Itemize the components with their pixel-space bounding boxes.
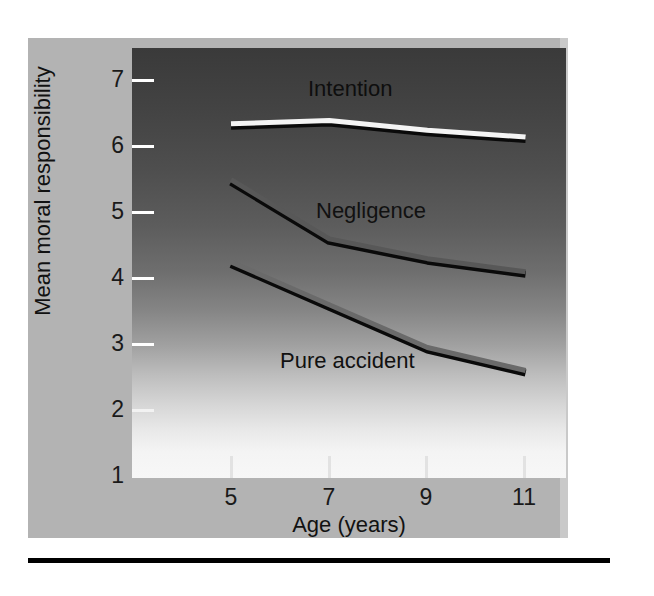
x-tick-7: [328, 456, 331, 478]
y-tick-6: [132, 145, 154, 148]
x-tick-9: [425, 456, 428, 478]
y-tick-2: [132, 409, 154, 412]
y-tick-3: [132, 343, 154, 346]
series-label-intention: Intention: [308, 78, 392, 100]
y-axis-label-1: 1: [98, 464, 124, 487]
figure-container: Intention Negligence Pure accident 7 6 5…: [0, 0, 654, 596]
y-tick-4: [132, 277, 154, 280]
x-axis-label-9: 9: [406, 486, 446, 509]
y-axis-label-2: 2: [98, 398, 124, 421]
y-tick-7: [132, 79, 154, 82]
x-axis-label-5: 5: [211, 486, 251, 509]
x-tick-11: [523, 456, 526, 478]
y-axis-label-6: 6: [98, 134, 124, 157]
x-axis-label-11: 11: [504, 486, 544, 509]
y-axis-label-3: 3: [98, 332, 124, 355]
series-label-pure-accident: Pure accident: [280, 350, 415, 372]
series-label-negligence: Negligence: [316, 200, 426, 222]
y-axis-label-7: 7: [98, 68, 124, 91]
x-tick-5: [230, 456, 233, 478]
y-axis-label-4: 4: [98, 266, 124, 289]
bottom-rule: [28, 558, 610, 563]
plot-area: Intention Negligence Pure accident: [132, 48, 566, 478]
y-tick-5: [132, 211, 154, 214]
y-axis-label-5: 5: [98, 200, 124, 223]
x-axis-label-7: 7: [309, 486, 349, 509]
x-axis-title: Age (years): [132, 512, 566, 538]
y-axis-title: Mean moral responsibility: [30, 26, 56, 356]
